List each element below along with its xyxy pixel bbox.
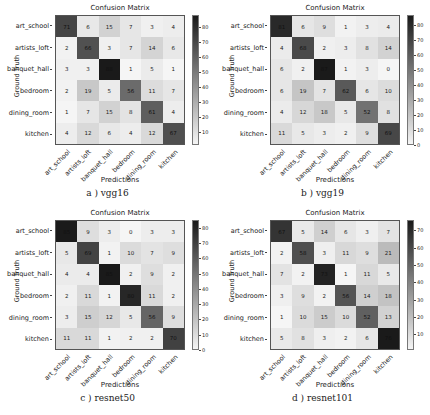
y-tick-label: bedroom xyxy=(215,80,268,102)
colorbar-tick-label: 30 xyxy=(202,301,208,307)
y-tick-label: kitchen xyxy=(215,328,268,350)
matrix-cell: 1 xyxy=(335,264,356,285)
matrix-cell: 62 xyxy=(335,80,356,101)
colorbar-tick-label: 70 xyxy=(202,39,208,45)
y-tick-label: banquet_hall xyxy=(0,58,53,80)
matrix-cell: 13 xyxy=(378,306,399,327)
matrix-cell: 2 xyxy=(314,285,335,306)
matrix-cell: 12 xyxy=(99,306,120,327)
matrix-cell: 21 xyxy=(378,242,399,263)
matrix-cell: 2 xyxy=(335,328,356,349)
matrix-cell: 12 xyxy=(141,123,162,144)
matrix-cell: 2 xyxy=(141,328,162,349)
y-tick-label: art_school xyxy=(215,15,268,37)
x-axis-tick-labels: art_schoolartists_loftbanquet_hallbedroo… xyxy=(55,351,185,381)
matrix-cell: 10 xyxy=(120,242,141,263)
matrix-cell: 11 xyxy=(77,328,98,349)
colorbar-tick-label: 40 xyxy=(417,82,423,88)
x-axis-tick-labels: art_schoolartists_loftbanquet_hallbedroo… xyxy=(270,146,400,176)
matrix-cell: 61 xyxy=(141,101,162,122)
matrix-cell: 5 xyxy=(335,101,356,122)
confusion-matrix-grid: 6751463725831192172731115392561418110151… xyxy=(270,220,400,350)
matrix-cell: 11 xyxy=(56,328,77,349)
y-axis-title: Ground Truth xyxy=(228,256,236,306)
matrix-cell: 9 xyxy=(163,306,184,327)
matrix-cell: 69 xyxy=(378,123,399,144)
confusion-matrix-grid: 8169134468238146287130619762610412185528… xyxy=(270,15,400,145)
panel-caption: a ) vgg16 xyxy=(0,188,215,198)
matrix-cell: 4 xyxy=(163,16,184,37)
colorbar-tick-label: 30 xyxy=(417,97,423,103)
matrix-cell: 3 xyxy=(314,123,335,144)
matrix-cell: 4 xyxy=(56,123,77,144)
colorbar-ticks: 1020304050607080 xyxy=(200,15,215,145)
matrix-cell: 69 xyxy=(77,242,98,263)
matrix-cell: 2 xyxy=(56,285,77,306)
matrix-cell: 2 xyxy=(56,80,77,101)
matrix-cell: 8 xyxy=(120,101,141,122)
matrix-cell: 5 xyxy=(120,306,141,327)
x-axis-tick-labels: art_schoolartists_loftbanquet_hallbedroo… xyxy=(55,146,185,176)
matrix-cell: 6 xyxy=(77,16,98,37)
matrix-cell: 7 xyxy=(314,80,335,101)
matrix-cell: 3 xyxy=(141,16,162,37)
matrix-cell: 5 xyxy=(56,242,77,263)
matrix-cell: 14 xyxy=(141,37,162,58)
colorbar-tick-label: 60 xyxy=(202,255,208,261)
y-axis-tick-labels: art_schoolartists_loftbanquet_hallbedroo… xyxy=(215,220,268,350)
matrix-cell: 2 xyxy=(120,264,141,285)
y-tick-label: art_school xyxy=(215,220,268,242)
matrix-cell: 15 xyxy=(77,306,98,327)
matrix-cell: 6 xyxy=(356,80,377,101)
y-tick-label: kitchen xyxy=(0,123,53,145)
matrix-cell: 2 xyxy=(314,37,335,58)
matrix-cell: 1 xyxy=(99,242,120,263)
matrix-cell: 4 xyxy=(271,37,292,58)
colorbar-tick-label: 60 xyxy=(417,245,423,251)
chart-title: Confusion Matrix xyxy=(270,4,400,12)
y-axis-title: Ground Truth xyxy=(228,51,236,101)
matrix-cell: 67 xyxy=(163,123,184,144)
matrix-cell: 58 xyxy=(292,242,313,263)
matrix-cell: 1 xyxy=(99,328,120,349)
colorbar-tick-label: 0 xyxy=(417,142,420,148)
matrix-cell: 87 xyxy=(314,59,335,80)
matrix-cell: 9 xyxy=(314,16,335,37)
matrix-cell: 2 xyxy=(56,37,77,58)
colorbar-tick-label: 10 xyxy=(202,332,208,338)
matrix-cell: 11 xyxy=(77,285,98,306)
colorbar-tick-label: 80 xyxy=(417,22,423,28)
matrix-cell: 1 xyxy=(163,59,184,80)
panel-caption: c ) resnet50 xyxy=(0,393,215,403)
colorbar-tick-label: 70 xyxy=(417,227,423,233)
chart-title: Confusion Matrix xyxy=(55,4,185,12)
colorbar-tick-label: 20 xyxy=(417,314,423,320)
matrix-cell: 4 xyxy=(378,16,399,37)
matrix-cell: 18 xyxy=(378,285,399,306)
matrix-cell: 14 xyxy=(356,285,377,306)
y-tick-label: artists_loft xyxy=(0,37,53,59)
colorbar xyxy=(407,220,414,350)
matrix-cell: 10 xyxy=(335,306,356,327)
matrix-cell: 4 xyxy=(271,101,292,122)
confusion-matrix-panel: Confusion Matrixart_schoolartists_loftba… xyxy=(0,0,215,207)
matrix-cell: 2 xyxy=(271,242,292,263)
matrix-cell: 12 xyxy=(77,123,98,144)
y-tick-label: kitchen xyxy=(215,123,268,145)
matrix-cell: 56 xyxy=(141,306,162,327)
matrix-cell: 7 xyxy=(271,264,292,285)
matrix-cell: 19 xyxy=(77,80,98,101)
x-tick: kitchen xyxy=(378,146,400,176)
colorbar-tick-label: 10 xyxy=(202,129,208,135)
matrix-cell: 3 xyxy=(356,59,377,80)
y-tick-label: bedroom xyxy=(215,285,268,307)
matrix-cell: 85 xyxy=(56,221,77,242)
matrix-cell: 6 xyxy=(292,16,313,37)
matrix-cell: 2 xyxy=(335,123,356,144)
matrix-cell: 3 xyxy=(77,59,98,80)
matrix-cell: 11 xyxy=(141,80,162,101)
matrix-cell: 10 xyxy=(292,306,313,327)
colorbar-tick-label: 70 xyxy=(417,37,423,43)
x-axis-title: Predictions xyxy=(55,381,185,389)
colorbar-ticks: 10203040506070 xyxy=(415,220,430,350)
